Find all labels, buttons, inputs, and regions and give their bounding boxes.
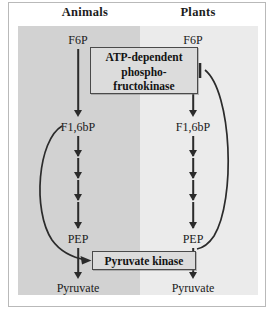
animals-node-pep: PEP	[68, 232, 89, 247]
diagram-canvas: Animals Plants F6P F1,6bP PEP Pyruvate F…	[0, 0, 276, 313]
animals-step-3-head	[74, 194, 82, 201]
pfk-line-2: phospho-	[91, 65, 197, 80]
animals-step-2-head	[74, 172, 82, 179]
animals-node-f16bp: F1,6bP	[61, 120, 95, 135]
plants-node-pyruvate: Pyruvate	[172, 281, 215, 296]
plants-step-3-head	[189, 194, 197, 201]
plants-node-f6p: F6P	[183, 33, 202, 48]
animals-step-4-head	[74, 222, 82, 229]
enzyme-box-phosphofructokinase: ATP-dependent phospho- fructokinase	[90, 47, 198, 94]
pfk-line-3: fructokinase	[91, 79, 197, 94]
plants-step-2-head	[189, 172, 197, 179]
animals-step-1-head	[74, 150, 82, 157]
plants-node-f16bp: F1,6bP	[176, 120, 210, 135]
enzyme-box-pyruvate-kinase: Pyruvate kinase	[92, 251, 196, 270]
animals-arrow-f6p-to-f16bp-line	[77, 49, 79, 114]
animals-arrow-pep-to-pyruvate-head	[74, 272, 82, 279]
column-heading-plants: Plants	[150, 5, 246, 20]
pyruvate-kinase-label: Pyruvate kinase	[105, 255, 184, 267]
plants-step-4-head	[189, 222, 197, 229]
plants-arrow-pep-to-pyruvate-head	[189, 272, 197, 279]
plants-arrow-f6p-to-f16bp-head	[189, 110, 197, 117]
pfk-line-1: ATP-dependent	[91, 50, 197, 65]
column-heading-animals: Animals	[30, 5, 140, 20]
plants-step-1-head	[189, 150, 197, 157]
animals-arrow-f6p-to-f16bp-head	[74, 110, 82, 117]
animals-node-f6p: F6P	[68, 33, 87, 48]
animals-node-pyruvate: Pyruvate	[57, 281, 100, 296]
plants-node-pep: PEP	[183, 232, 204, 247]
